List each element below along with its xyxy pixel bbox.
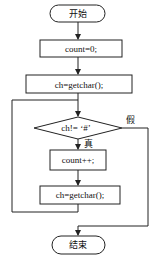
flowchart: 开始 count=0; ch=getchar(); ch!= ‘#’ 真 假 c… [0,0,158,264]
read2-label: ch=getchar(); [56,190,105,200]
start-label: 开始 [69,8,87,19]
condition-label: ch!= ‘#’ [61,123,90,133]
false-label: 假 [126,115,135,125]
increment-label: count++; [62,155,95,165]
read1-label: ch=getchar(); [55,80,104,90]
init-label: count=0; [65,44,97,54]
true-label: 真 [84,138,93,149]
end-label: 结束 [69,239,87,250]
